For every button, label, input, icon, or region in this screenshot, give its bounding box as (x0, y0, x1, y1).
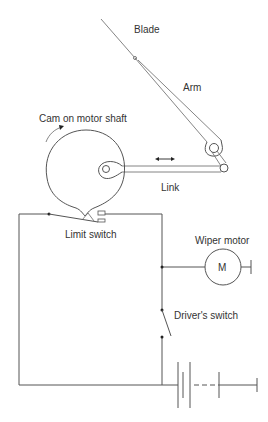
wiper-circuit-diagram: Blade Arm Cam on motor shaft Link Limit … (0, 0, 268, 422)
limit-switch (48, 211, 106, 222)
rotation-arrow-icon (46, 125, 64, 142)
cam (46, 125, 125, 216)
label-limit-switch: Limit switch (65, 229, 117, 240)
label-drivers-switch: Driver's switch (174, 310, 238, 321)
link (122, 157, 221, 172)
label-blade: Blade (134, 24, 160, 35)
drivers-switch (161, 309, 172, 339)
battery (178, 362, 257, 408)
label-arm: Arm (183, 82, 201, 93)
label-cam: Cam on motor shaft (39, 113, 127, 124)
arm (135, 58, 228, 172)
double-arrow-icon (155, 157, 175, 161)
label-wiper-motor: Wiper motor (195, 235, 250, 246)
label-link: Link (161, 182, 180, 193)
motor-symbol: M (218, 262, 226, 273)
blade (101, 19, 137, 60)
wiper-motor (205, 249, 251, 285)
